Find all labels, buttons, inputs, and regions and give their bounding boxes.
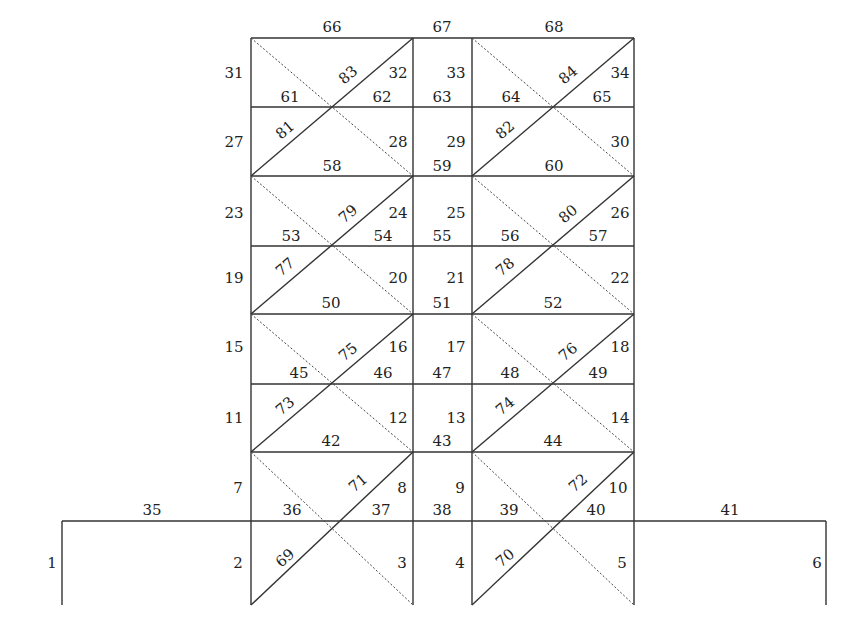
member-labels: 1234567891011121314151617181920212223242…	[47, 18, 822, 572]
base_columns-label-5: 5	[617, 554, 627, 572]
columns-label-23: 23	[224, 204, 243, 222]
braces-label-72: 72	[565, 470, 591, 496]
beams-label-53: 53	[281, 227, 300, 245]
braces-label-70: 70	[492, 545, 518, 571]
columns-label-22: 22	[610, 269, 629, 287]
columns-label-14: 14	[610, 409, 629, 427]
columns-label-19: 19	[224, 269, 243, 287]
beams-label-45: 45	[289, 364, 308, 382]
beams-label-54: 54	[373, 227, 392, 245]
beams-label-51: 51	[432, 294, 451, 312]
braces-label-71: 71	[345, 470, 371, 496]
columns-label-12: 12	[388, 409, 407, 427]
base_columns-label-6: 6	[812, 554, 822, 572]
beams-label-42: 42	[321, 432, 340, 450]
beams-label-58: 58	[322, 157, 341, 175]
columns-label-9: 9	[455, 479, 465, 497]
frame-lines	[62, 38, 826, 605]
beams-label-38: 38	[432, 501, 451, 519]
columns-label-7: 7	[233, 479, 243, 497]
beams-label-49: 49	[588, 364, 607, 382]
columns-label-24: 24	[388, 204, 407, 222]
base_columns-label-1: 1	[47, 554, 57, 572]
columns-label-15: 15	[224, 338, 243, 356]
frame-diagram: 1234567891011121314151617181920212223242…	[0, 0, 867, 637]
beams-label-68: 68	[544, 18, 563, 36]
beams-label-48: 48	[500, 364, 519, 382]
beams-label-37: 37	[371, 501, 390, 519]
beams-label-56: 56	[500, 227, 519, 245]
beams-label-62: 62	[372, 88, 391, 106]
columns-label-26: 26	[610, 204, 629, 222]
columns-label-8: 8	[397, 479, 407, 497]
columns-label-34: 34	[610, 64, 629, 82]
beams-label-43: 43	[432, 432, 451, 450]
braces-label-69: 69	[272, 545, 298, 571]
braces-label-76: 76	[555, 339, 581, 365]
braces-label-77: 77	[272, 254, 298, 280]
braces-label-82: 82	[492, 117, 518, 143]
columns-label-25: 25	[446, 204, 465, 222]
columns-label-32: 32	[388, 64, 407, 82]
base_columns-label-4: 4	[455, 554, 465, 572]
beams-label-66: 66	[322, 18, 341, 36]
beams-label-55: 55	[432, 227, 451, 245]
columns-label-30: 30	[610, 133, 629, 151]
beams-label-47: 47	[432, 364, 451, 382]
braces-label-78: 78	[492, 254, 518, 280]
columns-label-20: 20	[388, 269, 407, 287]
beams-label-65: 65	[592, 88, 611, 106]
beams-label-50: 50	[321, 294, 340, 312]
columns-label-17: 17	[446, 338, 465, 356]
beams-label-52: 52	[543, 294, 562, 312]
braces-label-74: 74	[492, 393, 518, 419]
beams-label-60: 60	[544, 157, 563, 175]
beams-label-46: 46	[373, 364, 392, 382]
base_columns-label-3: 3	[397, 554, 407, 572]
beams-label-40: 40	[586, 501, 605, 519]
beams-label-59: 59	[432, 157, 451, 175]
columns-label-31: 31	[224, 64, 243, 82]
beams-label-67: 67	[432, 18, 451, 36]
beams-label-61: 61	[280, 88, 299, 106]
columns-label-13: 13	[446, 409, 465, 427]
braces-label-84: 84	[555, 62, 581, 88]
columns-label-21: 21	[446, 269, 465, 287]
columns-label-28: 28	[388, 133, 407, 151]
beams-label-63: 63	[432, 88, 451, 106]
braces-label-83: 83	[335, 62, 361, 88]
beams-label-64: 64	[501, 88, 520, 106]
beams-label-41: 41	[720, 501, 739, 519]
beams-label-44: 44	[543, 432, 562, 450]
columns-label-33: 33	[446, 64, 465, 82]
columns-label-27: 27	[224, 133, 243, 151]
base_columns-label-2: 2	[233, 554, 243, 572]
beams-label-57: 57	[588, 227, 607, 245]
columns-label-11: 11	[224, 409, 243, 427]
columns-label-29: 29	[446, 133, 465, 151]
beams-label-36: 36	[282, 501, 301, 519]
braces-label-80: 80	[555, 201, 581, 227]
beams-label-39: 39	[499, 501, 518, 519]
columns-label-10: 10	[608, 479, 627, 497]
beams-label-35: 35	[142, 501, 161, 519]
columns-label-18: 18	[610, 338, 629, 356]
columns-label-16: 16	[388, 338, 407, 356]
